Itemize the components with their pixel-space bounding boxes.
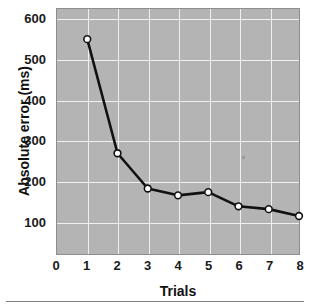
data-point-marker [235, 203, 242, 210]
data-point-marker [84, 36, 91, 43]
image-artifact-speck [242, 156, 245, 159]
data-point-marker [144, 185, 151, 192]
y-axis-tick-label: 600 [24, 11, 46, 26]
x-axis-tick-label: 7 [266, 258, 273, 273]
x-axis-tick-label: 2 [113, 258, 120, 273]
data-point-marker [265, 206, 272, 213]
chart-figure: 100200300400500600 Absolute error (ms) 0… [0, 0, 310, 308]
x-axis-tick-labels: 012345678 [0, 258, 310, 278]
data-point-marker [296, 213, 303, 220]
x-axis-tick-label: 8 [296, 258, 303, 273]
x-axis-tick-label: 0 [52, 258, 59, 273]
y-axis-title: Absolute error (ms) [16, 41, 32, 221]
data-point-marker [175, 192, 182, 199]
x-axis-tick-label: 6 [235, 258, 242, 273]
x-axis-title: Trials [56, 283, 300, 299]
data-point-marker [205, 189, 212, 196]
plot-area [56, 8, 300, 255]
x-axis-tick-label: 1 [83, 258, 90, 273]
series-line [87, 39, 299, 216]
x-axis-tick-label: 4 [174, 258, 181, 273]
x-axis-tick-label: 3 [144, 258, 151, 273]
line-series [57, 9, 299, 254]
footer-divider [6, 301, 304, 302]
x-axis-tick-label: 5 [205, 258, 212, 273]
data-point-marker [114, 150, 121, 157]
